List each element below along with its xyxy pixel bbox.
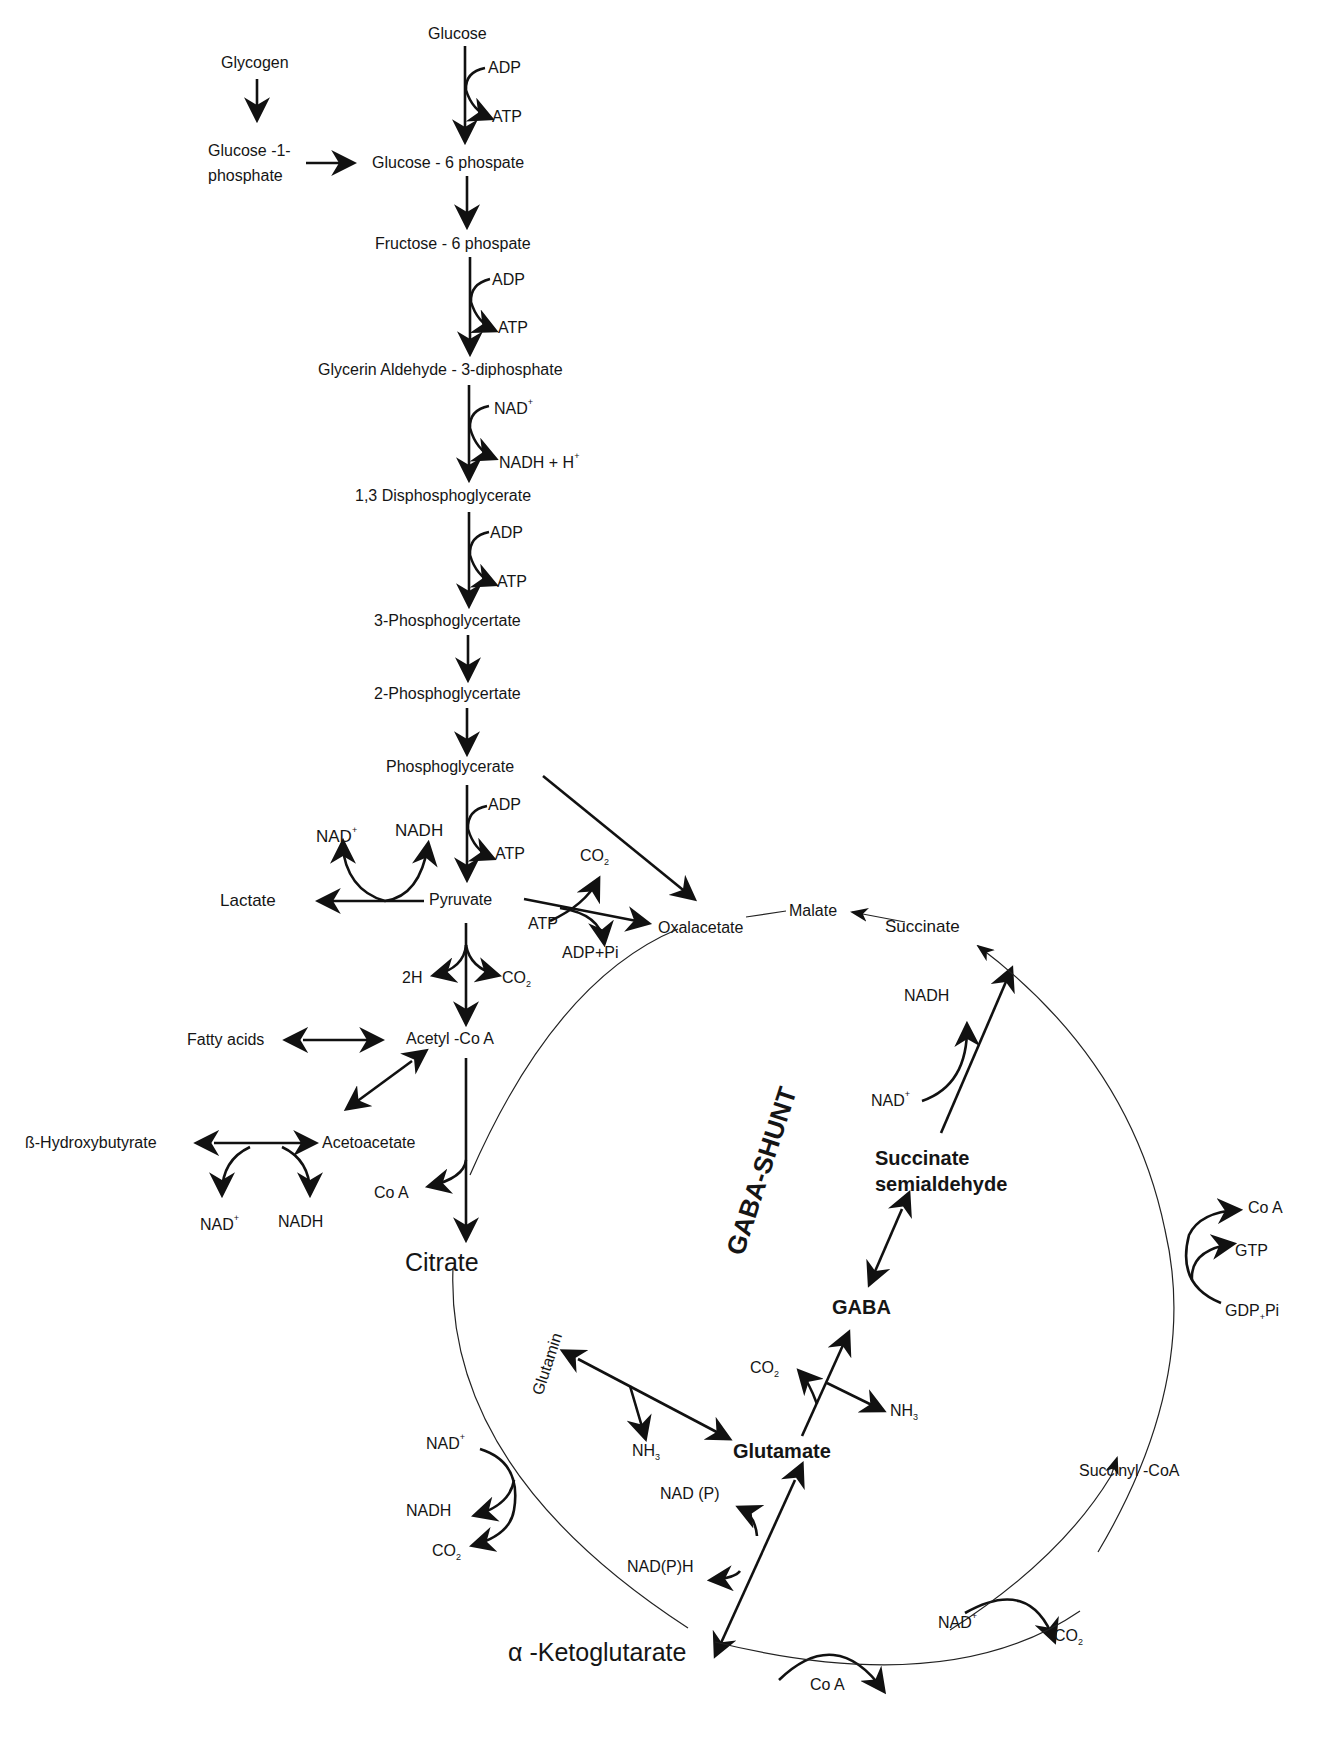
cofactor-co2: CO2 (502, 970, 531, 989)
cofactor-atp: ATP (528, 916, 558, 932)
cofactor-nad-plus: NAD+ (200, 1214, 239, 1233)
node-3-phosphoglycertate: 3-Phosphoglycertate (374, 613, 521, 629)
node-glycogen: Glycogen (221, 55, 289, 71)
cofactor-atp: ATP (495, 846, 525, 862)
cofactor-adp: ADP (488, 797, 521, 813)
node-glycerin-aldehyde: Glycerin Aldehyde - 3-diphosphate (318, 362, 563, 378)
node-succinate-semialdehyde-line2: semialdehyde (875, 1174, 1007, 1194)
cofactor-nadp: NAD (P) (660, 1486, 720, 1502)
node-gaba: GABA (832, 1297, 891, 1317)
node-glucose-1-phosphate-line1: Glucose -1- (208, 143, 291, 159)
node-glucose-6-phosphate: Glucose - 6 phospate (372, 155, 524, 171)
cofactor-nad-plus: NAD+ (938, 1612, 977, 1631)
cofactor-nadh-h-plus: NADH + H+ (499, 452, 579, 471)
cofactor-co2: CO2 (580, 848, 609, 867)
cofactor-co2: CO2 (750, 1360, 779, 1379)
cofactor-nh3: NH3 (632, 1443, 660, 1462)
node-1-3-disphosphoglycerate: 1,3 Disphosphoglycerate (355, 488, 531, 504)
cofactor-nad-plus: NAD+ (871, 1090, 910, 1109)
cofactor-nadh: NADH (395, 822, 443, 839)
cofactor-nad-plus: NAD+ (494, 398, 533, 417)
cofactor-nh3: NH3 (890, 1403, 918, 1422)
cofactor-nadh: NADH (278, 1214, 323, 1230)
cofactor-atp: ATP (492, 109, 522, 125)
cofactor-coa: Co A (374, 1185, 409, 1201)
cofactor-gdp-pi: GDP+Pi (1225, 1303, 1279, 1322)
node-phosphoglycerate: Phosphoglycerate (386, 759, 514, 775)
node-2-phosphoglycertate: 2-Phosphoglycertate (374, 686, 521, 702)
node-citrate: Citrate (405, 1250, 479, 1275)
node-succinate: Succinate (885, 918, 960, 935)
node-fructose-6-phosphate: Fructose - 6 phospate (375, 236, 531, 252)
node-glucose-1-phosphate-line2: phosphate (208, 168, 283, 184)
cofactor-coa: Co A (810, 1677, 845, 1693)
cofactor-atp: ATP (497, 574, 527, 590)
cofactor-co2: CO2 (432, 1543, 461, 1562)
cofactor-nadh: NADH (904, 988, 949, 1004)
cofactor-adp: ADP (492, 272, 525, 288)
cofactor-2h: 2H (402, 970, 422, 986)
cofactor-nadph: NAD(P)H (627, 1559, 694, 1575)
cofactor-atp: ATP (498, 320, 528, 336)
cofactor-adp: ADP (488, 60, 521, 76)
cofactor-nad-plus: NAD+ (426, 1433, 465, 1452)
node-succinate-semialdehyde-line1: Succinate (875, 1148, 969, 1168)
node-alpha-ketoglutarate: α -Ketoglutarate (508, 1640, 686, 1665)
node-glucose: Glucose (428, 26, 487, 42)
alpha-symbol: α (508, 1638, 522, 1666)
node-lactate: Lactate (220, 892, 276, 909)
cofactor-adp: ADP (490, 525, 523, 541)
cofactor-coa: Co A (1248, 1200, 1283, 1216)
node-acetyl-coa: Acetyl -Co A (406, 1031, 494, 1047)
node-oxalacetate: Oxalacetate (658, 920, 743, 936)
cofactor-nad-plus: NAD+ (316, 826, 357, 845)
node-pyruvate: Pyruvate (429, 892, 492, 908)
cofactor-adp-pi: ADP+Pi (562, 945, 618, 961)
node-acetoacetate: Acetoacetate (322, 1135, 415, 1151)
node-succinyl-coa: Succinyl -CoA (1079, 1463, 1179, 1479)
node-fatty-acids: Fatty acids (187, 1032, 264, 1048)
node-hydroxybutyrate: ß-Hydroxybutyrate (25, 1135, 157, 1151)
node-malate: Malate (789, 903, 837, 919)
node-glutamate: Glutamate (733, 1441, 831, 1461)
cofactor-gtp: GTP (1235, 1243, 1268, 1259)
cofactor-co2: CO2 (1054, 1628, 1083, 1647)
cofactor-nadh: NADH (406, 1503, 451, 1519)
